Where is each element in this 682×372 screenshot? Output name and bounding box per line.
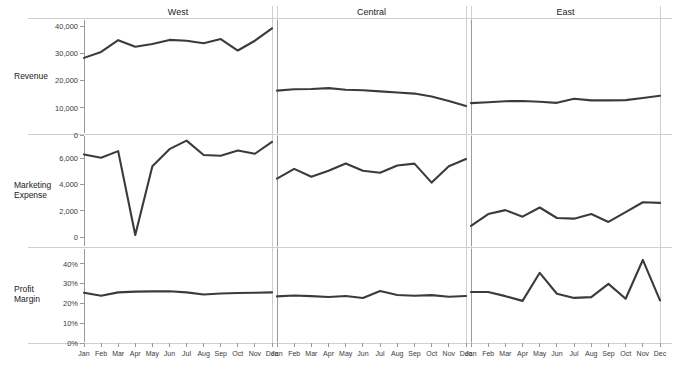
x-tick-label-east-sep: Sep [602, 350, 615, 358]
y-tick-label-2-2: 20% [63, 299, 78, 308]
x-tick-label-east-oct: Oct [620, 350, 631, 357]
y-tick-label-2-4: 40% [63, 260, 78, 269]
x-axis-group: JanFebMarAprMayJunJulAugSepOctNovDecJanF… [78, 343, 666, 358]
x-tick-label-west-feb: Feb [95, 350, 107, 357]
x-tick-label-west-sep: Sep [214, 350, 227, 358]
series-line-marketing-expense-central [277, 159, 466, 183]
x-tick-label-east-apr: Apr [517, 350, 529, 358]
x-tick-label-west-jul: Jul [182, 350, 191, 357]
row-label-profit-margin: ProfitMargin [14, 284, 40, 304]
x-tick-label-west-may: May [146, 350, 160, 358]
y-tick-label-2-3: 30% [63, 279, 78, 288]
x-tick-label-west-jun: Jun [164, 350, 175, 357]
y-tick-label-2-0: 0% [67, 339, 78, 348]
row-label-line-1: Margin [14, 294, 40, 304]
row-label-marketing-expense: MarketingExpense [14, 180, 52, 200]
x-tick-label-east-jul: Jul [570, 350, 579, 357]
y-tick-label-1-0: 0 [74, 233, 78, 242]
x-tick-label-central-jan: Jan [271, 350, 282, 357]
row-label-line-0: Marketing [14, 180, 52, 190]
y-axis-group: 010,00020,00030,00040,00002,0004,0006,00… [55, 20, 471, 348]
x-tick-label-east-jun: Jun [551, 350, 562, 357]
x-tick-label-west-oct: Oct [232, 350, 243, 357]
y-tick-label-0-3: 30,000 [55, 49, 78, 58]
trellis-chart: WestCentralEast RevenueMarketingExpenseP… [0, 0, 682, 372]
row-label-line-0: Revenue [14, 71, 48, 81]
y-tick-label-0-1: 10,000 [55, 104, 78, 113]
x-tick-label-west-jan: Jan [78, 350, 89, 357]
series-line-profit-margin-central [277, 291, 466, 298]
series-line-marketing-expense-east [471, 202, 660, 226]
y-tick-label-1-2: 4,000 [59, 180, 78, 189]
series-group [84, 28, 660, 300]
x-tick-label-east-dec: Dec [654, 350, 667, 357]
y-tick-label-1-1: 2,000 [59, 207, 78, 216]
x-tick-label-central-apr: Apr [323, 350, 335, 358]
y-tick-label-2-1: 10% [63, 319, 78, 328]
y-tick-label-1-3: 6,000 [59, 154, 78, 163]
x-tick-label-east-mar: Mar [499, 350, 512, 357]
x-tick-label-central-nov: Nov [443, 350, 456, 357]
x-tick-label-central-sep: Sep [408, 350, 421, 358]
column-title-group: WestCentralEast [168, 7, 575, 17]
column-title-east: East [556, 7, 575, 17]
column-title-central: Central [357, 7, 386, 17]
x-tick-label-east-feb: Feb [482, 350, 494, 357]
series-line-revenue-west [84, 28, 272, 57]
row-label-line-0: Profit [14, 284, 34, 294]
series-line-revenue-central [277, 88, 466, 106]
x-tick-label-central-oct: Oct [426, 350, 437, 357]
x-tick-label-west-apr: Apr [130, 350, 142, 358]
y-tick-label-0-4: 40,000 [55, 22, 78, 31]
column-title-west: West [168, 7, 189, 17]
x-tick-label-central-mar: Mar [305, 350, 318, 357]
x-tick-label-central-may: May [339, 350, 353, 358]
x-tick-label-west-mar: Mar [112, 350, 125, 357]
x-tick-label-west-nov: Nov [249, 350, 262, 357]
chart-canvas: WestCentralEast RevenueMarketingExpenseP… [0, 0, 682, 372]
x-tick-label-west-aug: Aug [197, 350, 210, 358]
series-line-profit-margin-east [471, 260, 660, 301]
x-tick-label-central-feb: Feb [288, 350, 300, 357]
series-line-profit-margin-west [84, 291, 272, 296]
row-label-revenue: Revenue [14, 71, 48, 81]
row-label-group: RevenueMarketingExpenseProfitMargin [14, 71, 52, 304]
x-tick-label-central-aug: Aug [391, 350, 404, 358]
x-tick-label-east-may: May [533, 350, 547, 358]
y-tick-label-0-0: 0 [74, 131, 78, 140]
x-tick-label-central-jul: Jul [376, 350, 385, 357]
x-tick-label-east-jan: Jan [465, 350, 476, 357]
x-tick-label-central-jun: Jun [357, 350, 368, 357]
y-tick-label-0-2: 20,000 [55, 76, 78, 85]
x-tick-label-east-aug: Aug [585, 350, 598, 358]
series-line-marketing-expense-west [84, 141, 272, 235]
x-tick-label-east-nov: Nov [637, 350, 650, 357]
series-line-revenue-east [471, 96, 660, 103]
row-label-line-1: Expense [14, 190, 47, 200]
